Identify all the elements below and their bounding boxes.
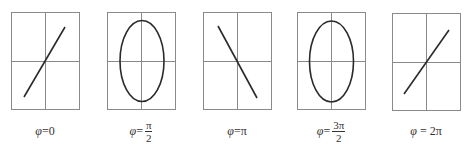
label-phase-pi: φ=π [203, 116, 271, 146]
phi-symbol: φ [130, 124, 137, 139]
phase-value: 0 [49, 124, 55, 139]
label-phase-pi-over-2: φ=π2 [107, 116, 175, 146]
fraction-numerator: 3π [332, 119, 345, 132]
phi-symbol: φ [227, 124, 234, 139]
label-phase-0: φ=0 [11, 116, 79, 146]
phase-value: π [241, 124, 247, 139]
panel-phase-pi-over-2 [108, 13, 176, 110]
phase-fraction: π2 [145, 119, 153, 144]
equals-sign: = [42, 124, 49, 139]
phi-symbol: φ [35, 124, 42, 139]
phase-value: 2π [430, 124, 442, 139]
phi-symbol: φ [410, 124, 417, 139]
label-phase-2pi: φ = 2π [392, 116, 460, 146]
fraction-denominator: 2 [336, 132, 342, 144]
label-phase-3pi-over-2: φ=3π2 [297, 116, 365, 146]
equals-sign: = [234, 124, 241, 139]
phase-fraction: 3π2 [332, 119, 345, 144]
panel-phase-0 [12, 13, 80, 110]
panel-phase-2pi [393, 14, 461, 111]
fraction-numerator: π [145, 119, 153, 132]
panel-phase-pi [204, 13, 272, 110]
equals-sign: = [417, 124, 430, 139]
fraction-denominator: 2 [146, 132, 152, 144]
equals-sign: = [136, 124, 143, 139]
phi-symbol: φ [317, 124, 324, 139]
equals-sign: = [323, 124, 330, 139]
panel-phase-3pi-over-2 [298, 13, 366, 110]
